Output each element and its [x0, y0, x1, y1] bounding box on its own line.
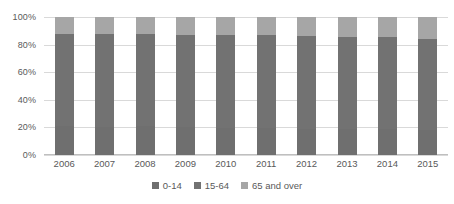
y-axis-tick-label: 80%	[18, 40, 36, 50]
y-axis-tick-label: 100%	[13, 12, 36, 22]
legend-item[interactable]: 0-14	[152, 180, 182, 191]
bar-stack[interactable]	[136, 17, 155, 155]
bar-stack[interactable]	[95, 17, 114, 155]
legend-label: 0-14	[163, 180, 182, 191]
bar-segment[interactable]	[378, 129, 397, 155]
bar-stack[interactable]	[297, 17, 316, 155]
x-axis-tick-label: 2007	[94, 158, 115, 169]
bar-segment[interactable]	[338, 37, 357, 129]
x-axis-tick-label: 2015	[417, 158, 438, 169]
bar-segment[interactable]	[216, 17, 235, 35]
legend-label: 65 and over	[252, 180, 302, 191]
y-axis-tick-label: 40%	[18, 95, 36, 105]
bar-segment[interactable]	[55, 126, 74, 155]
stacked-bar-chart: 0%20%40%60%80%100% 200620072008200920102…	[0, 0, 454, 204]
legend-swatch-icon	[152, 182, 159, 189]
bar-segment[interactable]	[378, 17, 397, 37]
bar-segment[interactable]	[136, 34, 155, 126]
bar-segment[interactable]	[216, 35, 235, 128]
x-axis-tick-label: 2013	[336, 158, 357, 169]
y-axis-tick-label: 0%	[23, 150, 36, 160]
legend-label: 15-64	[205, 180, 229, 191]
bar-segment[interactable]	[418, 17, 437, 39]
bar-segment[interactable]	[136, 126, 155, 155]
bar-stack[interactable]	[257, 17, 276, 155]
x-axis: 2006200720082009201020112012201320142015	[44, 158, 448, 174]
chart-legend: 0-1415-6465 and over	[0, 180, 454, 191]
bar-stack[interactable]	[338, 17, 357, 155]
bar-segment[interactable]	[418, 130, 437, 155]
x-axis-tick-label: 2006	[54, 158, 75, 169]
legend-item[interactable]: 15-64	[194, 180, 229, 191]
plot-area	[44, 17, 448, 155]
bar-segment[interactable]	[55, 17, 74, 34]
bar-segment[interactable]	[257, 128, 276, 155]
bar-segment[interactable]	[176, 17, 195, 35]
x-axis-tick-label: 2014	[377, 158, 398, 169]
legend-swatch-icon	[241, 182, 248, 189]
x-axis-tick-label: 2008	[134, 158, 155, 169]
x-axis-tick-label: 2009	[175, 158, 196, 169]
legend-swatch-icon	[194, 182, 201, 189]
bar-segment[interactable]	[297, 17, 316, 36]
bar-segment[interactable]	[216, 128, 235, 155]
x-axis-tick-label: 2011	[256, 158, 276, 169]
bar-segment[interactable]	[297, 129, 316, 155]
y-axis: 0%20%40%60%80%100%	[0, 17, 40, 155]
bar-segment[interactable]	[176, 127, 195, 155]
bar-segment[interactable]	[338, 17, 357, 37]
bar-segment[interactable]	[257, 17, 276, 35]
bar-stack[interactable]	[55, 17, 74, 155]
bar-segment[interactable]	[95, 34, 114, 127]
y-axis-tick-label: 20%	[18, 122, 36, 132]
bar-segment[interactable]	[418, 39, 437, 130]
gridline	[44, 155, 448, 156]
y-axis-tick-label: 60%	[18, 67, 36, 77]
legend-item[interactable]: 65 and over	[241, 180, 302, 191]
bar-stack[interactable]	[176, 17, 195, 155]
bar-segment[interactable]	[257, 35, 276, 128]
bar-segment[interactable]	[95, 127, 114, 155]
bar-segment[interactable]	[176, 35, 195, 127]
bar-stack[interactable]	[418, 17, 437, 155]
x-axis-tick-label: 2012	[296, 158, 317, 169]
bar-stack[interactable]	[216, 17, 235, 155]
bar-segment[interactable]	[338, 129, 357, 155]
bar-segment[interactable]	[55, 34, 74, 126]
bar-segment[interactable]	[378, 37, 397, 129]
bar-stack[interactable]	[378, 17, 397, 155]
bar-segment[interactable]	[95, 17, 114, 34]
bar-segment[interactable]	[136, 17, 155, 34]
x-axis-tick-label: 2010	[215, 158, 236, 169]
bar-segment[interactable]	[297, 36, 316, 128]
